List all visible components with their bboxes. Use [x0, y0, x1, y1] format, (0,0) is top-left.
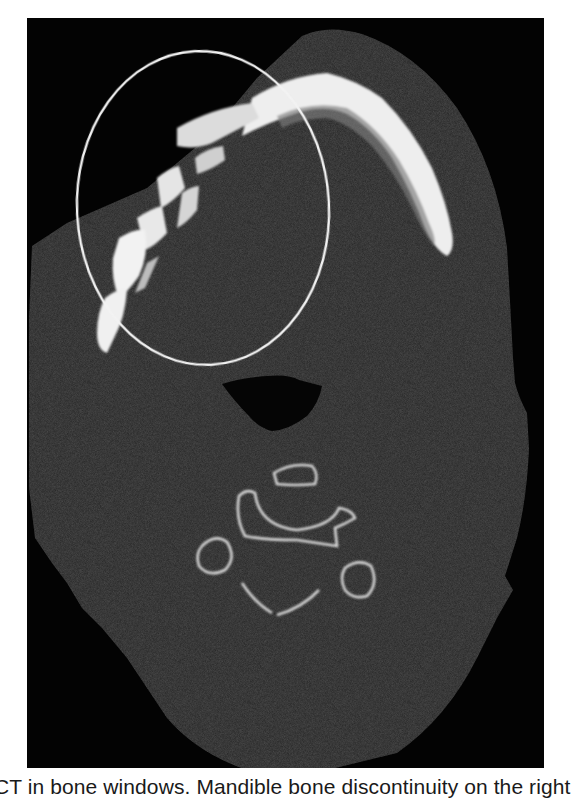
figure-caption: CT in bone windows. Mandible bone discon… [0, 775, 575, 799]
ct-scan-graphic [27, 18, 544, 768]
ct-image [27, 18, 544, 768]
